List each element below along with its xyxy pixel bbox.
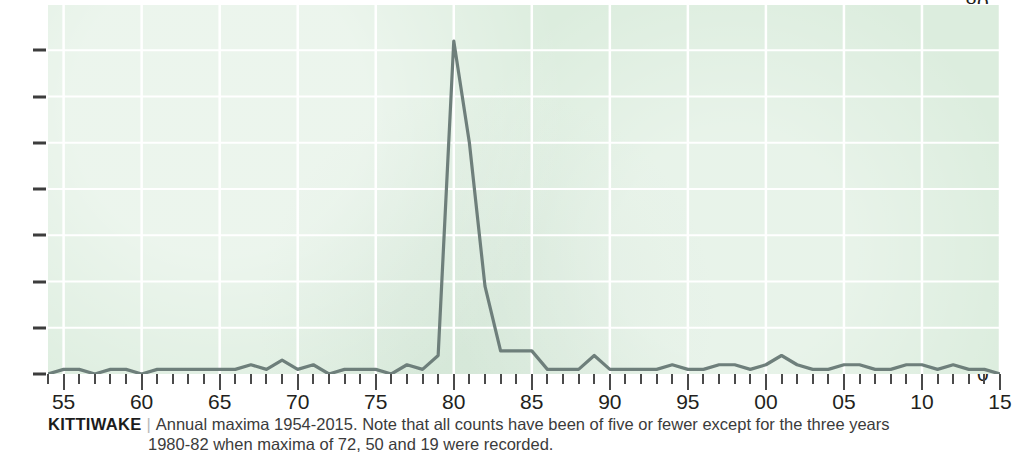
x-tick-2001 xyxy=(781,374,783,384)
caption-line-2: 1980-82 when maxima of 72, 50 and 19 wer… xyxy=(48,434,998,454)
caption-title: KITTIWAKE xyxy=(48,415,141,433)
x-tick-2012 xyxy=(952,374,954,384)
x-tick-1988 xyxy=(578,374,580,384)
caption-separator: | xyxy=(141,415,155,433)
x-tick-1991 xyxy=(624,374,626,384)
x-tick-1977 xyxy=(406,374,408,384)
x-tick-1986 xyxy=(546,374,548,384)
x-tick-2004 xyxy=(827,374,829,384)
x-tick-1962 xyxy=(172,374,174,384)
x-tick-1971 xyxy=(312,374,314,384)
x-tick-1978 xyxy=(422,374,424,384)
x-tick-2008 xyxy=(890,374,892,384)
x-tick-1979 xyxy=(437,374,439,384)
x-axis: 55606570758085909500051015 xyxy=(48,374,1000,390)
x-tick-label-1990: 90 xyxy=(598,390,621,414)
x-tick-label-1960: 60 xyxy=(130,390,153,414)
x-tick-1975 xyxy=(375,374,377,390)
x-tick-label-2005: 05 xyxy=(832,390,855,414)
x-tick-1957 xyxy=(94,374,96,384)
y-tick-mark-60 xyxy=(33,95,46,98)
x-tick-1976 xyxy=(390,374,392,384)
x-tick-label-2000: 00 xyxy=(754,390,777,414)
x-tick-1993 xyxy=(656,374,658,384)
x-tick-1959 xyxy=(125,374,127,384)
x-tick-1997 xyxy=(718,374,720,384)
x-tick-1970 xyxy=(297,374,299,390)
x-tick-1981 xyxy=(468,374,470,384)
x-tick-1954 xyxy=(47,374,49,384)
x-tick-1963 xyxy=(187,374,189,384)
x-tick-2000 xyxy=(765,374,767,390)
x-tick-1956 xyxy=(78,374,80,384)
x-tick-1973 xyxy=(344,374,346,384)
x-tick-2011 xyxy=(937,374,939,384)
x-tick-1998 xyxy=(734,374,736,384)
x-tick-2013 xyxy=(968,374,970,384)
x-tick-1996 xyxy=(702,374,704,384)
x-tick-1958 xyxy=(109,374,111,384)
x-tick-label-1955: 55 xyxy=(52,390,75,414)
y-tick-mark-30 xyxy=(33,234,46,237)
x-tick-2010 xyxy=(921,374,923,390)
x-tick-label-1965: 65 xyxy=(208,390,231,414)
x-tick-2003 xyxy=(812,374,814,384)
x-tick-1990 xyxy=(609,374,611,390)
x-tick-label-1980: 80 xyxy=(442,390,465,414)
x-tick-1984 xyxy=(515,374,517,384)
x-tick-label-1975: 75 xyxy=(364,390,387,414)
x-tick-1972 xyxy=(328,374,330,384)
x-tick-1968 xyxy=(265,374,267,384)
x-tick-1987 xyxy=(562,374,564,384)
figure-caption: KITTIWAKE|Annual maxima 1954-2015. Note … xyxy=(48,414,998,454)
x-tick-1974 xyxy=(359,374,361,384)
x-tick-1961 xyxy=(156,374,158,384)
x-tick-1965 xyxy=(219,374,221,390)
x-tick-1983 xyxy=(500,374,502,384)
x-tick-1967 xyxy=(250,374,252,384)
x-tick-1994 xyxy=(671,374,673,384)
x-tick-2014 xyxy=(983,374,985,384)
x-tick-label-2010: 10 xyxy=(910,390,933,414)
x-tick-2002 xyxy=(796,374,798,384)
plot-area xyxy=(48,4,1000,374)
series-line-annual-maxima xyxy=(48,4,1000,374)
x-tick-label-1985: 85 xyxy=(520,390,543,414)
y-tick-mark-50 xyxy=(33,141,46,144)
caption-line-1: Annual maxima 1954-2015. Note that all c… xyxy=(156,415,890,433)
x-tick-1995 xyxy=(687,374,689,390)
x-tick-2015 xyxy=(999,374,1001,390)
x-tick-1985 xyxy=(531,374,533,390)
x-tick-2005 xyxy=(843,374,845,390)
x-tick-2006 xyxy=(859,374,861,384)
y-tick-mark-20 xyxy=(33,280,46,283)
x-tick-1960 xyxy=(141,374,143,390)
y-tick-mark-40 xyxy=(33,188,46,191)
y-tick-mark-70 xyxy=(33,49,46,52)
x-tick-1955 xyxy=(63,374,65,390)
x-tick-label-1995: 95 xyxy=(676,390,699,414)
x-tick-1992 xyxy=(640,374,642,384)
x-tick-1964 xyxy=(203,374,205,384)
x-tick-label-2015: 15 xyxy=(988,390,1011,414)
x-tick-2007 xyxy=(874,374,876,384)
data-line-annual-maximum-count xyxy=(48,41,1000,374)
x-tick-1980 xyxy=(453,374,455,390)
x-tick-2009 xyxy=(905,374,907,384)
x-tick-1969 xyxy=(281,374,283,384)
x-tick-1982 xyxy=(484,374,486,384)
y-tick-mark-10 xyxy=(33,326,46,329)
x-tick-label-1970: 70 xyxy=(286,390,309,414)
x-tick-1966 xyxy=(234,374,236,384)
y-tick-mark-0 xyxy=(33,373,46,376)
x-tick-1999 xyxy=(749,374,751,384)
x-tick-1989 xyxy=(593,374,595,384)
